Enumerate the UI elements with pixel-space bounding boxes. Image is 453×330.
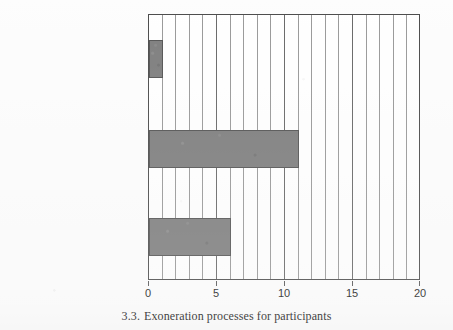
- gridline: [366, 15, 367, 279]
- x-axis-tick: [419, 281, 420, 286]
- x-axis-tick: [148, 281, 149, 286]
- x-axis-tick-label: 15: [346, 287, 358, 299]
- figure-caption-number: 3.3.: [122, 309, 140, 323]
- x-axis-tick-label: 20: [414, 287, 426, 299]
- gridline: [393, 15, 394, 279]
- gridline: [406, 15, 407, 279]
- plot-area: [148, 14, 420, 280]
- x-axis-tick-label: 10: [278, 287, 290, 299]
- x-axis-tick-label: 0: [145, 287, 151, 299]
- bar-not-guilty-at-retrial: [149, 218, 231, 256]
- x-axis-tick-label: 5: [213, 287, 219, 299]
- gridline: [379, 15, 380, 279]
- gridline: [311, 15, 312, 279]
- figure-caption-text: Exoneration processes for participants: [144, 309, 331, 323]
- figure-container: Pardon Overturned on Appeal/Charges Drop…: [0, 0, 453, 330]
- x-axis-tick: [284, 281, 285, 286]
- x-axis-tick: [216, 281, 217, 286]
- x-axis-tick: [352, 281, 353, 286]
- bar-overturned-on-appeal-charges-dropped: [149, 130, 299, 168]
- bar-pardon: [149, 40, 163, 78]
- gridline: [352, 15, 353, 279]
- figure-caption: 3.3.Exoneration processes for participan…: [0, 309, 453, 324]
- gridline: [338, 15, 339, 279]
- gridline: [325, 15, 326, 279]
